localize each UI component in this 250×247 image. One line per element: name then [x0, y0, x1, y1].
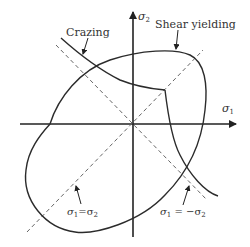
- equal-biaxial-pointer: [76, 186, 81, 204]
- yield-diagram: Crazing Shear yielding σ2 σ1 σ1=σ2 σ1 = …: [0, 0, 250, 247]
- crazing-pointer: [83, 38, 88, 54]
- sigma2-label: σ2: [138, 10, 150, 24]
- shear-yielding-label: Shear yielding: [155, 18, 236, 31]
- equal-biaxial-label: σ1=σ2: [67, 206, 98, 219]
- pure-shear-label: σ1 = −σ2: [160, 206, 206, 219]
- crazing-curve-lower: [165, 90, 218, 196]
- crazing-label: Crazing: [66, 26, 110, 39]
- sigma1-label: σ1: [222, 102, 234, 116]
- pure-shear-pointer: [183, 186, 189, 205]
- shear-yielding-pointer: [176, 30, 178, 49]
- pure-shear-line: [56, 45, 207, 200]
- crazing-curve-upper: [61, 38, 165, 90]
